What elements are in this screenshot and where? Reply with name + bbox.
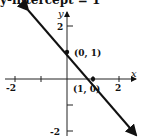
- line-chart: -2 2 2 -2 x y (0, 1) (1, 0): [0, 0, 141, 138]
- point-label-0-1: (0, 1): [74, 48, 101, 59]
- y-tick-label-2: 2: [57, 22, 63, 32]
- x-tick-label-2: 2: [115, 83, 121, 93]
- x-tick-label-neg2: -2: [6, 83, 16, 93]
- point-label-1-0: (1, 0): [73, 84, 100, 95]
- y-axis-label: y: [57, 8, 64, 19]
- data-line: [28, 10, 136, 135]
- y-tick-label-neg2: -2: [50, 127, 60, 137]
- x-axis-label: x: [131, 68, 137, 79]
- point-0-1: [65, 50, 69, 54]
- point-1-0: [91, 77, 95, 81]
